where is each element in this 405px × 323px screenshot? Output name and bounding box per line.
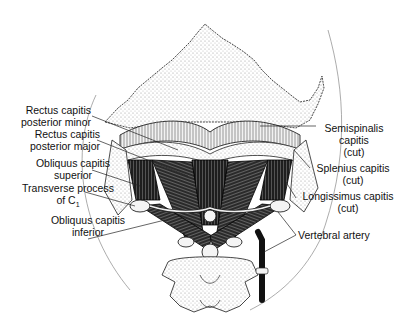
- label-line: Semispinalis: [318, 122, 390, 134]
- label-line-text: of C: [56, 194, 75, 206]
- label-line: (cut): [310, 174, 396, 186]
- label-line: inferior: [44, 226, 132, 238]
- anatomy-figure: Rectus capitis posterior minor Rectus ca…: [0, 0, 405, 323]
- label-line: Transverse process: [18, 182, 118, 194]
- label-semispinalis-capitis: Semispinalis capitis (cut): [318, 122, 390, 158]
- label-line: Rectus capitis: [30, 128, 100, 140]
- label-line: superior: [30, 169, 116, 181]
- label-line: Splenius capitis: [310, 162, 396, 174]
- label-line: Obliquus capitis: [44, 214, 132, 226]
- label-line: capitis: [318, 134, 390, 146]
- label-line: Obliquus capitis: [30, 157, 116, 169]
- label-line: Rectus capitis: [21, 104, 91, 116]
- label-vertebral-artery: Vertebral artery: [298, 229, 370, 241]
- label-obliquus-capitis-inferior: Obliquus capitis inferior: [44, 214, 132, 238]
- label-line: posterior minor: [21, 116, 91, 128]
- label-line: (cut): [296, 202, 400, 214]
- label-longissimus-capitis: Longissimus capitis (cut): [296, 190, 400, 214]
- subscript: 1: [76, 201, 80, 208]
- label-line: Longissimus capitis: [296, 190, 400, 202]
- label-transverse-process-c1: Transverse process of C1: [18, 182, 118, 211]
- label-line: Vertebral artery: [298, 229, 370, 241]
- label-obliquus-capitis-superior: Obliquus capitis superior: [30, 157, 116, 181]
- label-line: of C1: [18, 194, 118, 211]
- label-line: (cut): [318, 146, 390, 158]
- label-line: posterior major: [30, 140, 100, 152]
- label-rectus-capitis-posterior-major: Rectus capitis posterior major: [30, 128, 100, 152]
- label-rectus-capitis-posterior-minor: Rectus capitis posterior minor: [21, 104, 91, 128]
- label-splenius-capitis: Splenius capitis (cut): [310, 162, 396, 186]
